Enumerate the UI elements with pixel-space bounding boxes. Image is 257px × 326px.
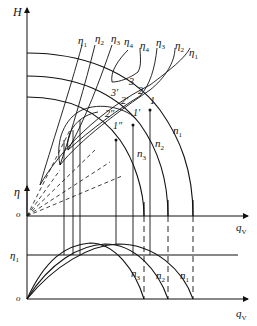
n-subscript: 1 — [179, 131, 183, 139]
iso-label-eta2-left: η2 — [95, 33, 104, 47]
eta-subscript: 1 — [15, 256, 19, 264]
speed-label-n3-top: n3 — [137, 148, 146, 162]
point-3-prime: 3′ — [111, 88, 118, 98]
eta-curve-n3 — [27, 243, 144, 299]
shutoff-projections — [144, 216, 193, 299]
eta-subscript: 2 — [180, 46, 184, 54]
iso-label-eta1-right: η1 — [189, 47, 198, 61]
n-subscript: 2 — [162, 276, 166, 284]
point-2-double-prime: 2″ — [105, 109, 114, 119]
eta-subscript: 3 — [161, 43, 165, 51]
iso-label-eta2-right: η2 — [175, 40, 184, 54]
iso-label-eta4-left: η4 — [124, 36, 133, 50]
speed-label-n3-bottom: n3 — [131, 268, 140, 282]
speed-label-n2-top: n2 — [155, 138, 164, 152]
point-2: 2 — [138, 86, 143, 96]
eta-subscript: 3 — [116, 39, 120, 47]
eta-curve-n2 — [27, 244, 168, 299]
origin-bottom-label: o — [16, 294, 21, 303]
qv-subscript: V — [242, 314, 247, 322]
eta-subscript: 1 — [83, 41, 87, 49]
qv-axis-bottom-label: qV — [236, 308, 247, 322]
point-1-double-prime: 1″ — [113, 121, 122, 131]
eta-subscript: 2 — [100, 39, 104, 47]
speed-label-n1-bottom: n1 — [180, 270, 189, 284]
speed-curves — [27, 53, 193, 216]
point-1: 1 — [150, 96, 155, 106]
point-1-prime: 1′ — [133, 108, 140, 118]
n-subscript: 3 — [137, 274, 141, 282]
iso-label-eta3-right: η3 — [156, 37, 165, 51]
iso-label-eta1-left: η1 — [78, 35, 87, 49]
h-axis-label: H — [13, 6, 22, 18]
n-subscript: 2 — [161, 144, 165, 152]
qv-axis-top-label: qV — [236, 222, 247, 236]
iso-label-eta3-left: η3 — [111, 33, 120, 47]
eta-subscript: 1 — [194, 53, 198, 61]
similarity-rays — [27, 130, 122, 216]
n-subscript: 1 — [186, 276, 190, 284]
origin-top-label: o — [16, 210, 21, 219]
iso-eta4 — [112, 48, 141, 82]
n-subscript: 3 — [143, 154, 147, 162]
point-2-prime: 2′ — [121, 96, 128, 106]
eta-subscript: 4 — [129, 42, 133, 50]
speed-label-n1-top: n1 — [173, 125, 182, 139]
eta-subscript: 4 — [145, 46, 149, 54]
iso-label-eta4-right: η4 — [140, 40, 149, 54]
qv-subscript: V — [242, 228, 247, 236]
point-3: 3 — [129, 77, 134, 87]
eta-axis-label: η — [14, 186, 20, 198]
eta1-reference-label: η1 — [10, 250, 19, 264]
speed-label-n2-bottom: n2 — [156, 270, 165, 284]
iso-efficiency-lines — [40, 45, 190, 185]
